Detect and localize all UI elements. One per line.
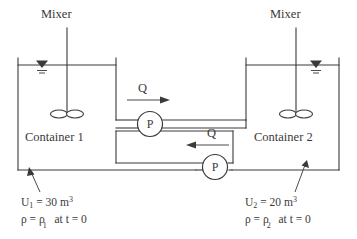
annotation-right-volume-equals: = 20 m [257, 196, 293, 208]
annotation-right-density-condition: at t = 0 [278, 213, 310, 225]
annotation-left-density-text: ρ = ρ [21, 213, 45, 225]
water-surface-triangle-icon-right [310, 61, 322, 74]
annotation-left-volume-equals: = 30 m [33, 196, 69, 208]
pipe-upper [116, 120, 246, 128]
water-surface-triangle-icon-left [36, 61, 48, 74]
annotation-left-density: ρ = ρ1 at t = 0 [21, 214, 87, 226]
annotation-left-volume-exponent: 3 [69, 195, 73, 204]
container-label-right: Container 2 [254, 131, 313, 144]
mixer-label-left: Mixer [41, 8, 72, 21]
arrow-left-icon [186, 142, 229, 149]
diagram-figure: Mixer Mixer Container 1 Container 2 Q Q … [0, 0, 357, 239]
annotation-right-volume: U2 = 20 m3 [245, 196, 297, 210]
pump-top-label: P [144, 118, 156, 130]
annotation-left-density-condition: at t = 0 [54, 213, 86, 225]
annotation-left-density-subscript: 1 [43, 221, 47, 230]
pump-bottom-label: P [209, 161, 221, 173]
annotation-right-volume-exponent: 3 [293, 195, 297, 204]
annotation-right-density-text: ρ = ρ [245, 213, 269, 225]
flow-label-bottom: Q [207, 127, 216, 140]
mixer-label-right: Mixer [270, 8, 301, 21]
leader-arrow-up-left-icon [295, 160, 309, 192]
annotation-right-density-subscript: 2 [267, 221, 271, 230]
leader-arrow-up-right-icon [27, 167, 40, 192]
container-label-left: Container 1 [25, 131, 84, 144]
container-left-walls [18, 58, 196, 170]
arrow-right-icon [127, 97, 170, 104]
flow-label-top: Q [138, 82, 147, 95]
annotation-right-density: ρ = ρ2 at t = 0 [245, 214, 311, 226]
annotation-left-volume: U1 = 30 m3 [21, 196, 73, 210]
